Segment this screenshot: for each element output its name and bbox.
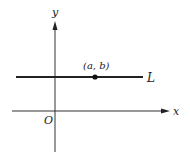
y-axis-arrowhead [53, 21, 58, 30]
origin-label: O [44, 114, 53, 127]
point-label: (a, b) [83, 60, 110, 71]
x-axis-label: x [173, 105, 180, 118]
point-a-b [92, 74, 97, 79]
coordinate-diagram: y x O L (a, b) [0, 0, 190, 162]
x-axis-arrowhead [161, 109, 170, 114]
y-axis-label: y [51, 6, 59, 19]
line-label: L [146, 71, 155, 85]
